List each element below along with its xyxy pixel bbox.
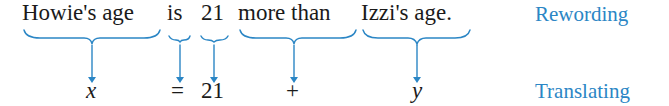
brace-more-than — [240, 30, 356, 44]
brace-howies-age — [24, 30, 160, 44]
symbol-x: x — [86, 79, 96, 102]
symbol-21: 21 — [201, 79, 224, 102]
symbol-equals: = — [171, 79, 184, 102]
brace-izzis-age — [363, 30, 470, 44]
translating-label: Translating — [535, 81, 630, 102]
symbol-y: y — [412, 79, 422, 102]
brace-21 — [201, 36, 228, 42]
symbol-plus: + — [286, 79, 299, 102]
brace-is — [169, 36, 190, 42]
